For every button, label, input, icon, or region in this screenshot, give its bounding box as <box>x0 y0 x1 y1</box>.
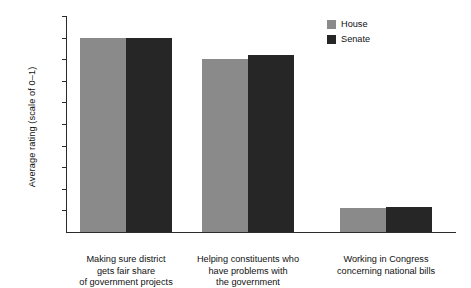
category-label-line: concerning national bills <box>296 266 471 278</box>
y-tick-mark <box>62 38 66 39</box>
bar-senate-group-1 <box>126 38 172 232</box>
bar-house-group-3 <box>340 208 386 232</box>
legend-swatch-senate-icon <box>327 35 336 44</box>
bar-senate-group-3 <box>386 207 432 232</box>
y-tick-mark <box>62 146 66 147</box>
bar-senate-group-2 <box>248 55 294 232</box>
y-tick-mark <box>62 210 66 211</box>
legend-label-senate: Senate <box>341 35 370 44</box>
category-label-line: the government <box>158 277 338 288</box>
legend-item-house: House <box>327 18 370 31</box>
y-tick-mark <box>62 102 66 103</box>
bar-house-group-1 <box>80 38 126 232</box>
bar-house-group-2 <box>202 59 248 232</box>
legend-swatch-house-icon <box>327 20 336 29</box>
plot-area: 1.00.90.80.70.60.50.40.30.20.1 Making su… <box>66 16 456 232</box>
y-tick-mark <box>62 81 66 82</box>
category-label-line: Working in Congress <box>296 254 471 266</box>
legend-label-house: House <box>341 20 368 29</box>
legend-item-senate: Senate <box>327 33 370 46</box>
category-label-3: Working in Congressconcerning national b… <box>296 254 471 277</box>
y-tick-mark <box>62 59 66 60</box>
chart-legend: House Senate <box>327 18 370 48</box>
y-tick-mark <box>62 124 66 125</box>
y-axis-line <box>66 16 67 233</box>
y-tick-mark <box>62 189 66 190</box>
x-axis-line <box>66 232 456 233</box>
bar-chart: Average rating (scale of 0–1) 1.00.90.80… <box>0 0 471 288</box>
y-tick-mark <box>62 167 66 168</box>
y-axis-title: Average rating (scale of 0–1) <box>27 32 37 222</box>
y-tick-mark <box>62 16 66 17</box>
